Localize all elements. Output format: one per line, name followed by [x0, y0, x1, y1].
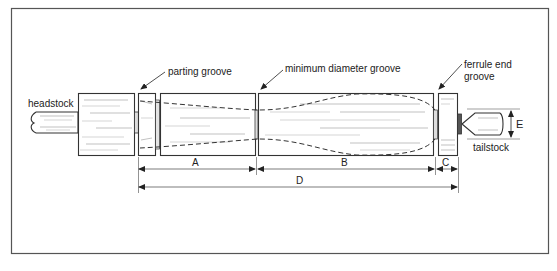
- minimum-diameter-groove: [255, 110, 258, 139]
- dimension-d: D: [139, 175, 457, 187]
- minimum-diameter-groove-callout: minimum diameter groove: [261, 63, 401, 89]
- tailstock-center: [458, 113, 504, 135]
- parting-groove: [156, 100, 160, 149]
- minimum-diameter-groove-label: minimum diameter groove: [285, 63, 401, 74]
- headstock-label: headstock: [28, 98, 75, 109]
- drive-connector: [135, 112, 139, 133]
- dimension-d-label: D: [296, 175, 303, 186]
- blank-section-b: [259, 94, 434, 156]
- dimension-c: C: [437, 157, 457, 169]
- ferrule-end-label-line1: ferrule end: [464, 59, 512, 70]
- headstock-block: [79, 94, 135, 156]
- parting-groove-callout: parting groove: [141, 66, 232, 89]
- parting-piece: [139, 94, 156, 156]
- dimension-c-label: C: [442, 157, 449, 168]
- ferrule-end-groove-callout: ferrule end groove: [439, 59, 512, 89]
- tailstock-label: tailstock: [473, 142, 510, 153]
- parting-groove-label: parting groove: [168, 66, 232, 77]
- dimension-b: B: [258, 157, 434, 169]
- dimension-a-label: A: [192, 157, 199, 168]
- dimension-a: A: [139, 157, 255, 169]
- diagram-figure: E A B C D headstock tailstock parting gr…: [0, 0, 557, 271]
- ferrule-end-groove: [434, 110, 438, 139]
- dimension-b-label: B: [341, 157, 348, 168]
- dimension-e-label: E: [516, 118, 523, 130]
- ferrule-end-label-line2: groove: [464, 71, 495, 82]
- ferrule-piece: [439, 94, 458, 156]
- headstock-spindle: [31, 112, 78, 133]
